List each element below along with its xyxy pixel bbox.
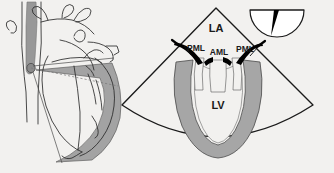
label-pml-right: PML [236, 44, 254, 54]
transducer-tip-icon [27, 63, 35, 72]
label-aml: AML [210, 47, 228, 57]
figure-canvas: LA PML AML PML LV [0, 0, 334, 173]
label-la: LA [209, 22, 224, 34]
tee-figure: LA PML AML PML LV [0, 0, 334, 173]
aml-gap [210, 60, 227, 92]
label-pml-left: PML [187, 43, 205, 53]
label-lv: LV [211, 99, 225, 111]
